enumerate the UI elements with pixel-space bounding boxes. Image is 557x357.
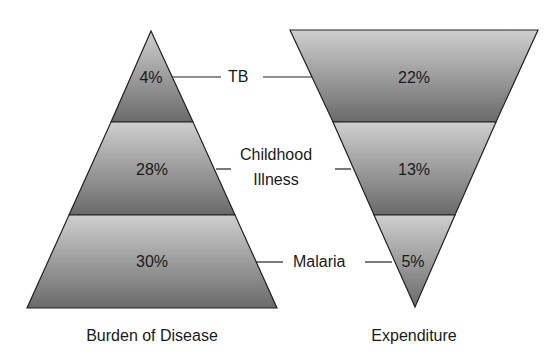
childhood-label-line1: Childhood <box>240 146 312 164</box>
burden-malaria-value: 30% <box>136 253 168 271</box>
childhood-label-line2: Illness <box>253 171 298 189</box>
expenditure-childhood-value: 13% <box>398 161 430 179</box>
expenditure-malaria-value: 5% <box>401 253 424 271</box>
expenditure-caption: Expenditure <box>371 327 456 345</box>
expenditure-tb-value: 22% <box>398 69 430 87</box>
burden-caption: Burden of Disease <box>86 327 218 345</box>
burden-tb-value: 4% <box>139 69 162 87</box>
malaria-label: Malaria <box>293 253 345 271</box>
burden-childhood-value: 28% <box>136 161 168 179</box>
tb-label: TB <box>228 68 248 86</box>
